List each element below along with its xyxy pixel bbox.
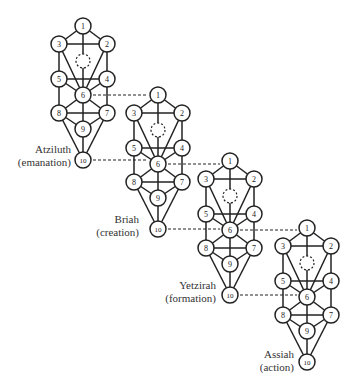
sephirah-number: 6 — [228, 226, 232, 235]
sephirah-number: 8 — [281, 311, 285, 320]
sephirah-number: 10 — [304, 359, 312, 367]
sephirah-number: 8 — [132, 178, 136, 187]
world-meaning: (action) — [260, 361, 294, 374]
sephirah-number: 3 — [57, 40, 61, 49]
world-name: Briah — [96, 213, 139, 226]
daat-dashed-circle — [223, 189, 237, 203]
sephirah-number: 4 — [180, 144, 184, 153]
daat-dashed-circle — [76, 54, 90, 68]
daat-dashed-circle — [151, 123, 165, 137]
sephirah-number: 10 — [155, 226, 163, 234]
sephirah-number: 10 — [80, 157, 88, 165]
world-label-briah: Briah(creation) — [96, 213, 139, 239]
sephirah-number: 1 — [228, 157, 232, 166]
sephirah-number: 9 — [81, 125, 85, 134]
sephirah-number: 7 — [180, 178, 184, 187]
world-label-atziluth: Atziluth(emanation) — [18, 143, 71, 169]
sephirah-number: 8 — [57, 109, 61, 118]
sephirah-number: 7 — [105, 109, 109, 118]
world-meaning: (creation) — [96, 226, 139, 239]
sephirah-number: 7 — [329, 311, 333, 320]
sephirah-number: 4 — [329, 277, 333, 286]
sephirah-number: 4 — [105, 75, 109, 84]
sephirah-number: 7 — [252, 244, 256, 253]
sephirah-number: 2 — [252, 175, 256, 184]
sephirah-number: 2 — [180, 109, 184, 118]
sephirah-number: 5 — [132, 144, 136, 153]
sephirah-number: 6 — [305, 293, 309, 302]
sephirah-number: 9 — [156, 194, 160, 203]
sephirah-number: 9 — [228, 260, 232, 269]
sephirah-number: 9 — [305, 327, 309, 336]
sephirah-number: 1 — [156, 91, 160, 100]
world-name: Atziluth — [18, 143, 71, 156]
daat-dashed-circle — [300, 256, 314, 270]
sephirah-number: 2 — [329, 242, 333, 251]
world-meaning: (emanation) — [18, 156, 71, 169]
sephirah-number: 1 — [305, 224, 309, 233]
sephirah-number: 4 — [252, 210, 256, 219]
sephirah-number: 10 — [227, 292, 235, 300]
sephirah-number: 6 — [81, 91, 85, 100]
sephirah-number: 5 — [57, 75, 61, 84]
world-label-yetzirah: Yetzirah(formation) — [165, 279, 216, 305]
sephirah-number: 5 — [204, 210, 208, 219]
sephirah-number: 3 — [204, 175, 208, 184]
world-name: Yetzirah — [165, 279, 216, 292]
world-name: Assiah — [260, 348, 294, 361]
sephirah-number: 3 — [132, 109, 136, 118]
sephirah-number: 1 — [81, 22, 85, 31]
sephirah-number: 6 — [156, 160, 160, 169]
sephirah-number: 8 — [204, 244, 208, 253]
world-label-assiah: Assiah(action) — [260, 348, 294, 374]
world-meaning: (formation) — [165, 292, 216, 305]
sephirah-number: 2 — [105, 40, 109, 49]
sephirah-number: 5 — [281, 277, 285, 286]
four-worlds-diagram: 1234567891012345678910123456789101234567… — [0, 0, 360, 389]
sephirah-number: 3 — [281, 242, 285, 251]
